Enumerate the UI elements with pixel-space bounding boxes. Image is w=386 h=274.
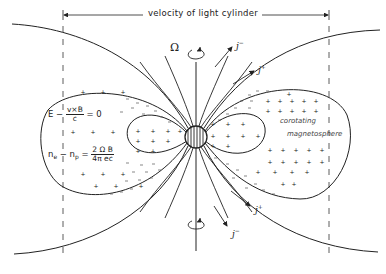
svg-text:+: +: [293, 146, 298, 153]
svg-text:+: +: [165, 137, 170, 144]
svg-text:+: +: [150, 127, 155, 134]
svg-text:+: +: [113, 182, 118, 189]
svg-text:+: +: [135, 147, 140, 154]
svg-text:+: +: [120, 170, 125, 177]
svg-text:+: +: [240, 120, 245, 127]
svg-text:+: +: [267, 158, 272, 165]
svg-text:+: +: [110, 128, 115, 135]
svg-text:+: +: [225, 132, 230, 139]
svg-text:+: +: [306, 146, 311, 153]
region-label-line1: corotating: [280, 118, 316, 125]
svg-text:+: +: [80, 170, 85, 177]
svg-text:+: +: [100, 170, 105, 177]
svg-text:+: +: [319, 158, 324, 165]
current-label-top-inner: j+: [258, 64, 266, 75]
svg-text:+: +: [289, 168, 294, 175]
svg-text:+: +: [272, 168, 277, 175]
svg-text:+: +: [90, 128, 95, 135]
svg-text:+: +: [70, 128, 75, 135]
rotation-arrow-top-icon: [188, 47, 204, 59]
svg-text:+: +: [225, 120, 230, 127]
svg-text:+: +: [165, 127, 170, 134]
svg-text:+: +: [291, 180, 296, 187]
svg-text:+: +: [135, 127, 140, 134]
svg-text:+: +: [265, 97, 270, 104]
current-label-top-outer: j−: [236, 40, 244, 51]
svg-text:+: +: [120, 88, 125, 95]
svg-text:+: +: [225, 142, 230, 149]
svg-text:+: +: [93, 182, 98, 189]
svg-text:+: +: [255, 168, 260, 175]
svg-text:+: +: [313, 107, 318, 114]
svg-text:+: +: [138, 182, 143, 189]
svg-text:+: +: [280, 158, 285, 165]
svg-text:+: +: [313, 97, 318, 104]
svg-text:+: +: [210, 142, 215, 149]
svg-text:+: +: [150, 137, 155, 144]
svg-text:+: +: [150, 147, 155, 154]
svg-text:+: +: [240, 132, 245, 139]
svg-text:+: +: [319, 146, 324, 153]
svg-text:+: +: [277, 107, 282, 114]
svg-text:+: +: [135, 137, 140, 144]
svg-text:+: +: [177, 127, 182, 134]
svg-text:+: +: [293, 158, 298, 165]
svg-text:+: +: [100, 88, 105, 95]
svg-text:+: +: [301, 107, 306, 114]
svg-text:+: +: [280, 146, 285, 153]
svg-text:+: +: [80, 88, 85, 95]
svg-text:+: +: [304, 168, 309, 175]
charge-density-equation: ne − np = 2 Ω B4π ec: [48, 146, 114, 162]
svg-text:+: +: [210, 120, 215, 127]
light-cylinder-label: velocity of light cylinder: [148, 9, 258, 18]
current-label-bottom-inner: j+: [255, 204, 263, 215]
rotation-symbol: Ω: [170, 42, 179, 53]
svg-text:+: +: [306, 158, 311, 165]
svg-text:+: +: [289, 97, 294, 104]
force-free-equation: E − v×Bc = 0: [48, 106, 102, 122]
svg-text:+: +: [277, 97, 282, 104]
svg-text:+: +: [280, 180, 285, 187]
current-label-bottom-outer: j−: [232, 228, 240, 239]
region-label-line2: magnetosphere: [287, 131, 342, 138]
svg-text:+: +: [255, 132, 260, 139]
svg-text:+: +: [267, 146, 272, 153]
svg-text:+: +: [301, 97, 306, 104]
svg-text:+: +: [265, 107, 270, 114]
svg-text:+: +: [289, 107, 294, 114]
svg-text:+: +: [286, 90, 291, 97]
svg-text:+: +: [210, 132, 215, 139]
